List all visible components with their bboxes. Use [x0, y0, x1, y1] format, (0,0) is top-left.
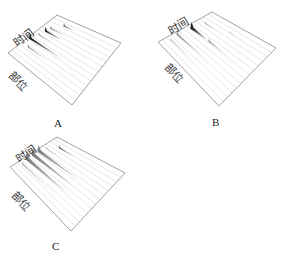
panel-b-peak — [177, 31, 209, 62]
panel-b-peak — [230, 31, 240, 39]
panel-b-grid-line — [175, 33, 237, 88]
panel-a-label: A — [54, 118, 62, 129]
panel-c-grid-line — [17, 162, 79, 222]
panel-b-grid-line — [195, 21, 258, 66]
panel-b-grid-line — [183, 28, 245, 79]
panel-b-peak — [208, 38, 227, 55]
panel-b-grid-line — [170, 35, 232, 93]
panel-a-grid-line — [34, 33, 98, 72]
panel-a-peak — [63, 23, 76, 32]
panel-c-grid-line — [43, 146, 109, 191]
panel-b-label: B — [212, 117, 219, 128]
panel-c-label: C — [52, 241, 59, 252]
panel-b-grid-line — [179, 30, 241, 83]
panel-b-grid-line — [187, 26, 250, 75]
panel-a-grid-line — [27, 38, 91, 81]
panel-a-grid-line — [31, 35, 95, 76]
panel-c-grid-line — [53, 139, 120, 177]
panel-c-grid-line — [46, 144, 112, 186]
panel-a-grid-line — [23, 41, 87, 86]
panel-b-grid-line — [208, 14, 272, 52]
panel-b-grid-line — [204, 17, 268, 57]
figure-canvas — [0, 0, 284, 258]
